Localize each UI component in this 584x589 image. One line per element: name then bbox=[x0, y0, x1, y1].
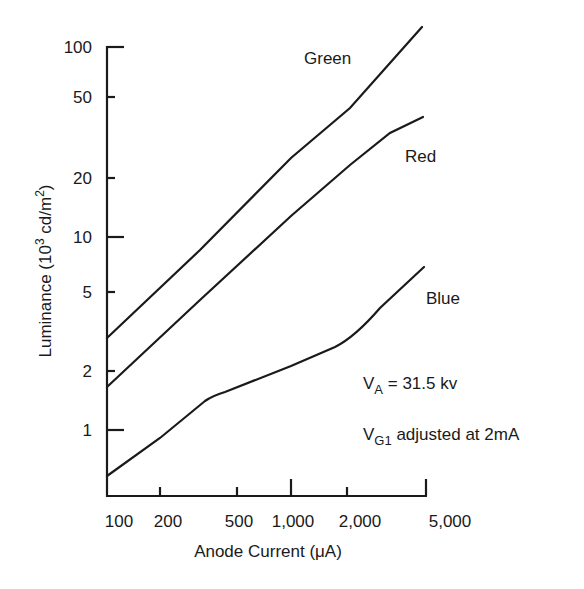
y-tick-label: 10 bbox=[73, 228, 92, 247]
red-series-label: Red bbox=[405, 147, 436, 166]
x-tick-labels: 100 200 500 1,000 2,000 5,000 bbox=[105, 512, 471, 531]
y-tick-label: 50 bbox=[73, 88, 92, 107]
blue-series-label: Blue bbox=[426, 289, 460, 308]
x-axis-title: Anode Current (μA) bbox=[194, 542, 342, 561]
y-tick-label: 1 bbox=[83, 421, 92, 440]
y-tick-labels: 100 50 20 10 5 2 1 bbox=[64, 38, 92, 440]
x-tick-label: 2,000 bbox=[339, 512, 382, 531]
y-tick-label: 2 bbox=[83, 362, 92, 381]
x-tick-label: 500 bbox=[225, 512, 253, 531]
red-series-line bbox=[107, 117, 423, 387]
axes bbox=[106, 46, 427, 497]
green-series-label: Green bbox=[304, 49, 351, 68]
x-tick-label: 200 bbox=[154, 512, 182, 531]
green-series-line bbox=[107, 27, 422, 338]
x-tick-label: 1,000 bbox=[272, 512, 315, 531]
y-axis-title: Luminance (103 cd/m2) bbox=[33, 184, 55, 357]
grid-voltage-annotation: VG1 adjusted at 2mA bbox=[363, 425, 520, 448]
luminance-chart: 100 50 20 10 5 2 1 100 200 500 1,000 2,0… bbox=[0, 0, 584, 589]
y-tick-label: 5 bbox=[83, 283, 92, 302]
x-tick-label: 5,000 bbox=[429, 512, 472, 531]
series-lines bbox=[107, 27, 424, 476]
x-tick-label: 100 bbox=[105, 512, 133, 531]
y-tick-label: 20 bbox=[73, 169, 92, 188]
anode-voltage-annotation: VA = 31.5 kv bbox=[363, 374, 458, 397]
y-tick-label: 100 bbox=[64, 38, 92, 57]
